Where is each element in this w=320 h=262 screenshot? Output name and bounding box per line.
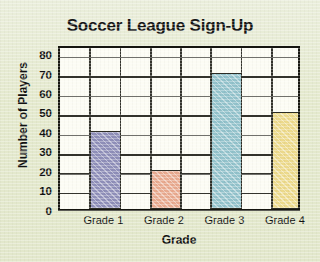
y-tick-label: 40 (18, 128, 52, 139)
y-tick-label: 20 (18, 167, 52, 178)
y-tick-label: 30 (18, 147, 52, 158)
bar (211, 73, 241, 209)
x-tick-label: Grade 1 (71, 214, 135, 226)
plot-area (58, 46, 300, 211)
y-tick-label: 70 (18, 70, 52, 81)
bar (151, 170, 181, 209)
y-tick-label: 10 (18, 186, 52, 197)
x-tick-label: Grade 3 (192, 214, 256, 226)
y-tick-label: 60 (18, 89, 52, 100)
plot-inner (60, 48, 298, 209)
bar (90, 131, 120, 209)
gridline (60, 96, 298, 98)
chart-card: Soccer League Sign-Up Number of Players … (0, 0, 320, 262)
x-tick-label: Grade 4 (253, 214, 317, 226)
x-tick-label: Grade 2 (132, 214, 196, 226)
gridline (60, 115, 298, 117)
x-axis-title: Grade (58, 233, 300, 247)
y-tick-label: 50 (18, 108, 52, 119)
chart-title: Soccer League Sign-Up (0, 16, 320, 36)
gridline (60, 57, 298, 59)
y-tick-label: 80 (18, 50, 52, 61)
y-tick-label: 0 (18, 206, 52, 217)
bar-hatch (91, 132, 119, 208)
bar-hatch (273, 113, 298, 208)
bar (272, 112, 298, 209)
bar-hatch (212, 74, 240, 208)
gridline (60, 76, 298, 78)
bar-hatch (152, 171, 180, 208)
